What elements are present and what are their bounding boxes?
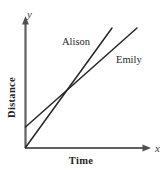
- series-label-emily: Emily: [116, 54, 142, 65]
- series-label-alison: Alison: [62, 36, 91, 47]
- x-axis-title: Time: [58, 155, 104, 166]
- plot-canvas: y x Alison Emily: [0, 0, 166, 172]
- distance-time-graph-figure: ....... ... ..... .. y x Alison Emily Di…: [0, 0, 166, 172]
- x-axis-variable-label: x: [154, 142, 160, 154]
- x-axis-arrowhead: [143, 145, 152, 152]
- y-axis-title: Distance: [6, 66, 17, 130]
- y-axis-variable-label: y: [26, 8, 32, 20]
